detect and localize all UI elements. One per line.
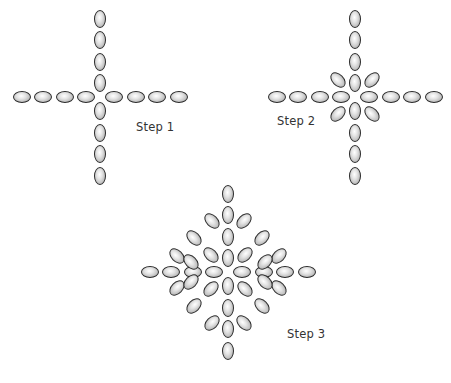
bead-diagonal [234,278,255,299]
bead-diagonal [327,103,348,124]
bead-horizontal [298,266,316,278]
bead-vertical [94,31,106,49]
bead-horizontal [13,91,31,103]
bead-diagonal [361,103,382,124]
bead-diagonal [251,295,272,316]
bead-horizontal [205,266,223,278]
bead-diagonal [201,210,222,231]
bead-vertical [349,74,361,92]
diagram-canvas: Step 1 Step 2 Step 3 [0,0,451,383]
bead-horizontal [332,91,350,103]
bead-horizontal [360,91,378,103]
bead-diagonal [201,312,222,333]
bead-vertical [349,102,361,120]
bead-vertical [349,10,361,28]
bead-vertical [94,167,106,185]
bead-vertical [222,320,234,338]
bead-diagonal [183,295,204,316]
bead-vertical [349,167,361,185]
bead-vertical [94,74,106,92]
bead-diagonal [200,278,221,299]
bead-diagonal [251,227,272,248]
bead-horizontal [268,91,286,103]
bead-vertical [349,124,361,142]
bead-horizontal [127,91,145,103]
bead-horizontal [403,91,421,103]
bead-horizontal [148,91,166,103]
bead-horizontal [162,266,180,278]
bead-horizontal [233,266,251,278]
step-3-label: Step 3 [287,327,325,341]
bead-horizontal [289,91,307,103]
bead-diagonal [361,69,382,90]
bead-vertical [94,145,106,163]
bead-diagonal [233,210,254,231]
step-2-label: Step 2 [277,114,315,128]
bead-horizontal [56,91,74,103]
bead-diagonal [200,244,221,265]
bead-vertical [94,53,106,71]
bead-horizontal [382,91,400,103]
bead-vertical [222,185,234,203]
bead-vertical [222,299,234,317]
bead-vertical [349,53,361,71]
bead-horizontal [170,91,188,103]
bead-vertical [222,206,234,224]
step-1-label: Step 1 [136,120,174,134]
bead-horizontal [425,91,443,103]
bead-vertical [222,228,234,246]
bead-horizontal [34,91,52,103]
bead-vertical [94,10,106,28]
bead-vertical [222,342,234,360]
bead-vertical [349,145,361,163]
bead-vertical [222,277,234,295]
bead-horizontal [141,266,159,278]
bead-horizontal [276,266,294,278]
bead-diagonal [233,312,254,333]
bead-vertical [94,102,106,120]
bead-vertical [349,31,361,49]
bead-diagonal [327,69,348,90]
bead-horizontal [77,91,95,103]
bead-horizontal [105,91,123,103]
bead-diagonal [234,244,255,265]
bead-horizontal [311,91,329,103]
bead-diagonal [183,227,204,248]
bead-vertical [222,249,234,267]
bead-vertical [94,124,106,142]
